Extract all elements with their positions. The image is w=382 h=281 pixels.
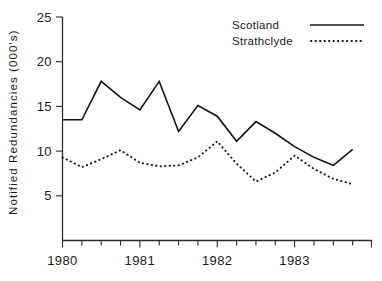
x-tick-label: 1981	[125, 253, 156, 268]
chart-legend: Scotland Strathclyde	[232, 19, 364, 47]
y-tick-label: 10	[37, 144, 52, 159]
series-line-strathclyde	[63, 141, 353, 184]
y-tick-label: 15	[37, 99, 52, 114]
legend-label-scotland: Scotland	[232, 19, 279, 31]
y-axis-ticks: 510152025	[37, 10, 63, 204]
y-tick-label: 20	[37, 54, 52, 69]
data-series-layer	[63, 81, 353, 184]
series-line-scotland	[63, 81, 353, 165]
x-tick-label: 1980	[47, 253, 78, 268]
y-axis-title-label: Notified Redundancies (000's)	[7, 29, 19, 215]
y-tick-label: 25	[37, 10, 52, 25]
x-tick-label: 1982	[202, 253, 233, 268]
x-tick-label: 1983	[279, 253, 310, 268]
chart-container: Notified Redundancies (000's) 510152025 …	[0, 0, 382, 281]
y-tick-label: 5	[44, 188, 52, 203]
y-axis-title: Notified Redundancies (000's)	[7, 29, 19, 215]
redundancies-line-chart: Notified Redundancies (000's) 510152025 …	[0, 0, 382, 281]
x-axis-ticks: 1980198119821983	[47, 241, 371, 268]
legend-label-strathclyde: Strathclyde	[232, 35, 293, 47]
